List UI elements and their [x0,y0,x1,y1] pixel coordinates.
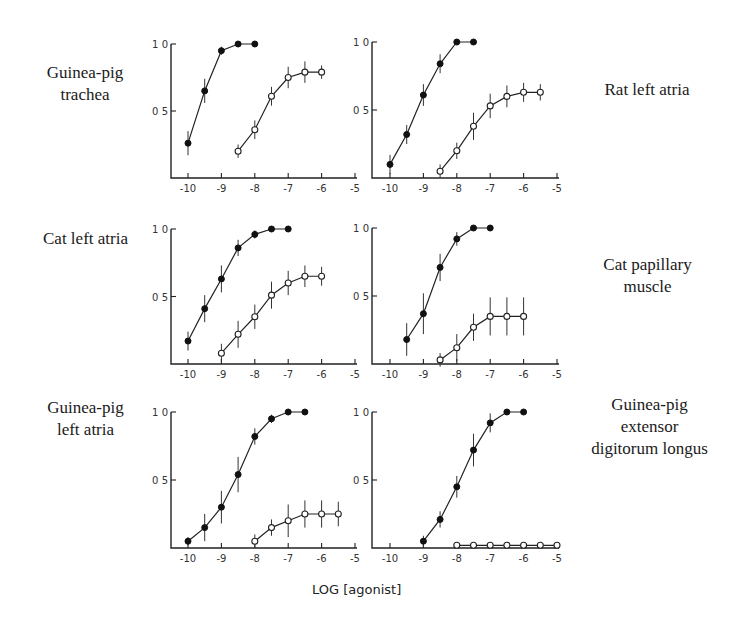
chart-panel: 1 00 5-10-9-8-7-6-5 [353,407,562,564]
data-point-open [521,542,527,548]
x-tick-label: -8 [452,369,462,380]
x-tick-label: -9 [216,183,226,194]
data-point-filled [252,41,258,47]
y-tick-label: 1 0 [152,39,168,50]
x-tick-label: -6 [317,553,327,564]
panel-label-line: left atria [18,419,153,441]
x-tick-label: -6 [519,369,529,380]
x-tick-label: -5 [350,369,360,380]
x-tick-label: -7 [283,183,293,194]
data-point-filled [185,538,191,544]
data-point-open [285,518,291,524]
x-tick-label: -5 [552,369,562,380]
data-point-filled [202,306,208,312]
data-point-open [521,89,527,95]
data-point-filled [185,140,191,146]
data-point-open [269,93,275,99]
x-tick-label: -8 [452,553,462,564]
x-tick-label: -9 [418,369,428,380]
data-point-filled [437,516,443,522]
data-point-open [471,324,477,330]
data-point-filled [202,88,208,94]
data-point-filled [471,447,477,453]
data-point-open [235,148,241,154]
x-tick-label: -7 [485,183,495,194]
panel-label-cat-papillary-muscle: Cat papillarymuscle [580,254,715,298]
x-tick-label: -10 [180,553,196,564]
x-tick-label: -10 [180,183,196,194]
data-point-filled [437,264,443,270]
x-tick-label: -8 [250,553,260,564]
data-point-open [252,127,258,133]
x-tick-label: -6 [317,183,327,194]
data-point-open [235,331,241,337]
y-tick-label: 0 5 [152,106,168,117]
data-point-open [454,542,460,548]
data-point-filled [420,92,426,98]
y-tick-label: 1 0 [353,223,369,234]
data-point-filled [471,225,477,231]
y-tick-label: 0 5 [353,105,369,116]
panel-label-cat-left-atria: Cat left atria [18,228,153,250]
chart-panel: 1 00 5-10-9-8-7-6-5 [152,407,360,564]
y-tick-label: 1 0 [353,407,369,418]
data-point-filled [504,409,510,415]
panel-label-line: extensor [572,416,727,438]
y-tick-label: 0 5 [353,475,369,486]
data-point-filled [454,484,460,490]
data-point-open [319,69,325,75]
axes [171,229,357,364]
data-point-filled [202,525,208,531]
panel-label-line: muscle [580,276,715,298]
data-point-filled [218,504,224,510]
x-tick-label: -6 [519,183,529,194]
data-point-filled [454,236,460,242]
y-tick-label: 1 0 [353,37,369,48]
chart-panel: 1 00 5-10-9-8-7-6-5 [353,37,562,194]
x-tick-label: -8 [250,183,260,194]
axes [372,42,559,178]
x-tick-label: -10 [382,183,398,194]
x-tick-label: -8 [452,183,462,194]
panel-label-line: trachea [20,84,150,106]
chart-panel: 1 00 5-10-9-8-7-6-5 [152,224,360,380]
series-line-open [238,72,322,151]
data-point-filled [454,39,460,45]
data-point-filled [269,226,275,232]
panel-label-line: Cat papillary [580,254,715,276]
data-point-open [269,525,275,531]
data-point-open [285,280,291,286]
panel-label-guinea-pig-edl: Guinea-pigextensordigitorum longus [572,394,727,460]
chart-panel: 1 00 5-10-9-8-7-6-5 [353,223,562,380]
panel-label-line: digitorum longus [572,438,727,460]
data-point-open [487,103,493,109]
x-tick-label: -9 [216,553,226,564]
data-point-filled [218,48,224,54]
x-tick-label: -7 [485,369,495,380]
data-point-filled [404,131,410,137]
data-point-filled [387,161,393,167]
data-point-filled [437,61,443,67]
data-point-open [302,69,308,75]
series-line-filled [390,42,474,164]
data-point-open [335,511,341,517]
x-tick-label: -7 [283,553,293,564]
data-point-open [252,314,258,320]
data-point-open [454,345,460,351]
data-point-open [554,542,560,548]
data-point-filled [521,409,527,415]
axes [372,412,559,548]
data-point-filled [252,231,258,237]
data-point-filled [235,245,241,251]
x-tick-label: -10 [382,369,398,380]
x-tick-label: -9 [216,369,226,380]
data-point-open [487,313,493,319]
x-tick-label: -8 [250,369,260,380]
panel-label-line: Cat left atria [18,228,153,250]
data-point-open [504,93,510,99]
data-point-open [537,89,543,95]
y-tick-label: 1 0 [152,224,168,235]
chart-panel: 1 00 5-10-9-8-7-6-5 [152,39,360,194]
data-point-open [521,313,527,319]
data-point-open [537,542,543,548]
